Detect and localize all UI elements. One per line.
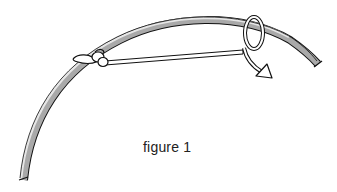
figure-caption: figure 1 (143, 139, 191, 155)
direction-arrow-icon (244, 48, 272, 78)
bow-stringing-diagram (0, 0, 337, 192)
bow-stave (19, 17, 322, 180)
bow-string (105, 50, 243, 65)
